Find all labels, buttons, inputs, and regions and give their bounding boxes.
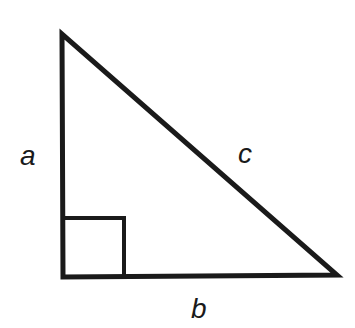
label-b: b bbox=[191, 293, 207, 324]
triangle bbox=[62, 34, 337, 277]
label-c: c bbox=[238, 138, 252, 169]
right-triangle-diagram: a c b bbox=[0, 0, 355, 328]
right-angle-marker bbox=[63, 218, 124, 277]
label-a: a bbox=[20, 140, 36, 171]
